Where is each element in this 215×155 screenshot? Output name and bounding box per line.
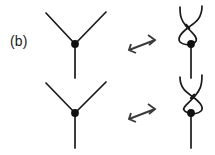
y-vertex-up [46,12,106,78]
figure-panel-b: (b) [0,0,215,155]
relation-arrow-bottom-upper-bar [129,109,155,119]
braided-vertex-up [179,6,202,78]
y-vertex-down-upper-left-leg [46,83,75,113]
braided-vertex-down-node [187,109,195,117]
y-vertex-up-upper-right-leg [75,12,106,44]
relation-arrow-top-upper-head [148,35,155,45]
y-vertex-down-node [71,109,79,117]
y-vertex-up-node [71,40,79,48]
braided-vertex-down [180,75,202,148]
braided-vertex-up-right-strand [179,6,202,45]
relation-arrow-top [129,35,155,53]
y-vertex-down [46,82,106,148]
relation-arrow-bottom [129,104,155,122]
y-vertex-up-upper-left-leg [46,13,75,44]
braided-vertex-down-right-strand [184,75,202,113]
y-vertex-down-upper-right-leg [75,82,106,113]
braided-vertex-up-node [187,40,195,48]
relation-arrow-bottom-upper-head [148,104,155,114]
diagram-canvas [0,0,215,155]
relation-arrow-top-upper-bar [129,40,155,50]
